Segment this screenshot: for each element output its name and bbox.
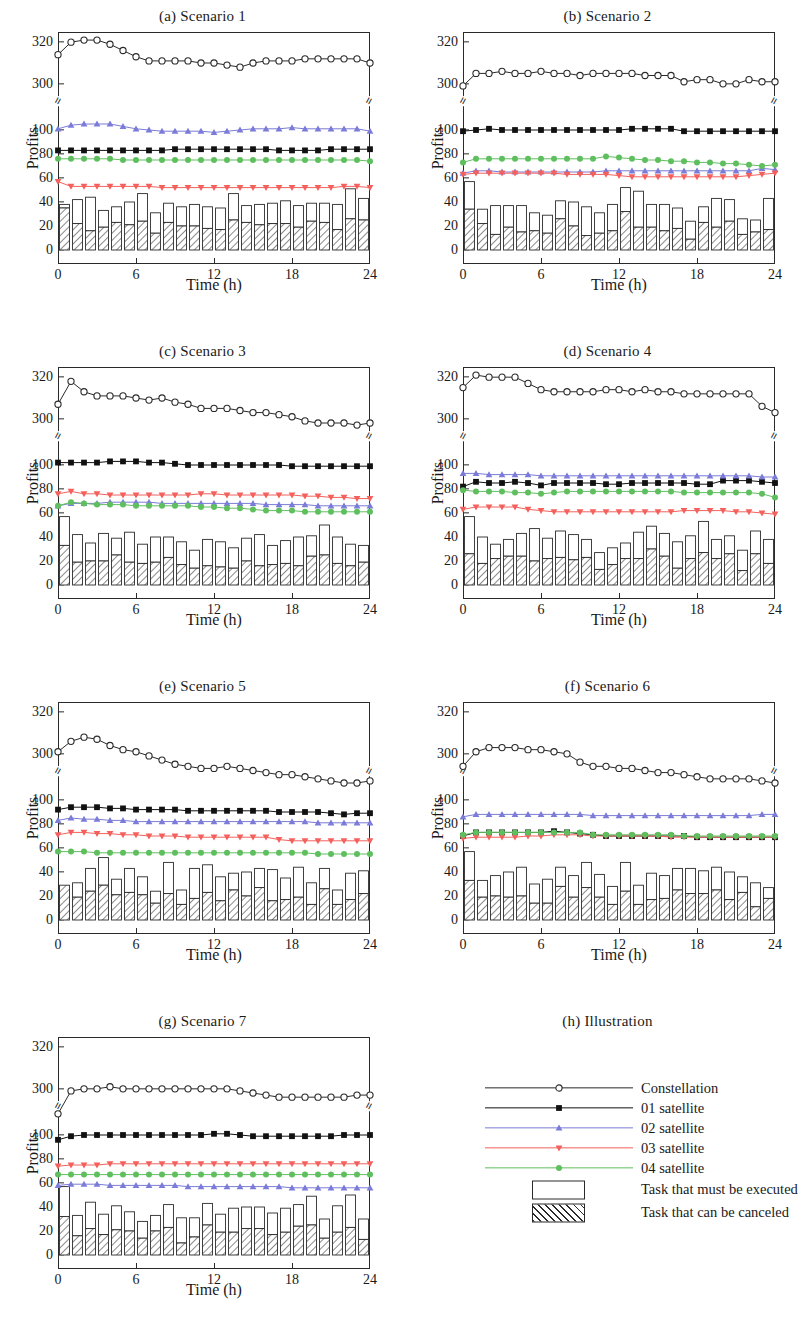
bar-can-cancel	[660, 898, 670, 920]
y-tick-label: 20	[39, 554, 53, 568]
bar-can-cancel	[634, 904, 644, 920]
legend: Constellation01 satellite02 satellite03 …	[485, 1078, 805, 1224]
bar-must-execute	[346, 873, 356, 899]
legend-item: 02 satellite	[485, 1118, 805, 1138]
bar-must-execute	[125, 868, 135, 892]
bar-can-cancel	[203, 566, 213, 585]
panel-c-plot: ProfitsTime (h)3203001008060402000612182…	[58, 367, 370, 599]
bar-can-cancel	[86, 891, 96, 920]
bar-must-execute	[621, 188, 631, 212]
x-tick-label: 0	[55, 1273, 62, 1287]
y-tick-label: 60	[39, 1176, 53, 1190]
bar-can-cancel	[764, 563, 774, 585]
bar-must-execute	[294, 1205, 304, 1227]
bar-must-execute	[333, 204, 343, 229]
bar-can-cancel	[190, 568, 200, 585]
bar-must-execute	[333, 1206, 343, 1232]
bar-can-cancel	[177, 1243, 187, 1255]
y-tick-label: 0	[46, 913, 53, 927]
bar-can-cancel	[164, 894, 174, 920]
x-tick-label: 18	[285, 603, 299, 617]
legend-item: 01 satellite	[485, 1098, 805, 1118]
panel-d-title: (d) Scenario 4	[405, 343, 810, 360]
bar-must-execute	[229, 194, 239, 220]
bar-can-cancel	[190, 226, 200, 250]
legend-item: Task that can be canceled	[485, 1201, 805, 1224]
bar-group	[60, 858, 369, 920]
bar-can-cancel	[504, 897, 514, 920]
bar-must-execute	[634, 191, 644, 227]
bar-can-cancel	[99, 561, 109, 585]
bar-must-execute	[203, 1203, 213, 1225]
y-tick-label: 60	[444, 506, 458, 520]
bar-must-execute	[764, 539, 774, 563]
bar-can-cancel	[125, 225, 135, 250]
bar-must-execute	[621, 543, 631, 559]
legend-swatch-white	[532, 1180, 585, 1199]
y-tick-label: 100	[437, 793, 458, 807]
bar-can-cancel	[229, 890, 239, 920]
y-tick-label: 80	[444, 147, 458, 161]
series-markers	[55, 1131, 373, 1143]
bar-can-cancel	[699, 894, 709, 920]
bar-can-cancel	[294, 1226, 304, 1255]
bar-must-execute	[112, 879, 122, 895]
y-tick-label: 40	[444, 865, 458, 879]
bar-must-execute	[216, 208, 226, 230]
bar-can-cancel	[73, 224, 83, 250]
bar-must-execute	[99, 858, 109, 886]
bar-can-cancel	[99, 885, 109, 920]
series-markers	[55, 1161, 374, 1169]
bar-must-execute	[307, 883, 317, 905]
bar-can-cancel	[359, 562, 369, 585]
x-tick-label: 0	[55, 268, 62, 282]
bar-must-execute	[647, 204, 657, 227]
bar-must-execute	[216, 877, 226, 901]
bar-must-execute	[543, 879, 553, 903]
bar-must-execute	[346, 544, 356, 566]
bar-can-cancel	[673, 890, 683, 920]
series-line	[58, 381, 370, 425]
bar-group	[465, 517, 774, 585]
bar-must-execute	[634, 532, 644, 558]
bar-must-execute	[751, 220, 761, 232]
bar-must-execute	[73, 1215, 83, 1235]
bar-must-execute	[242, 206, 252, 223]
bar-must-execute	[242, 1207, 252, 1229]
bar-can-cancel	[582, 888, 592, 920]
legend-marker-filled-square-icon	[551, 1100, 567, 1116]
bar-must-execute	[608, 886, 618, 904]
bar-must-execute	[255, 1207, 265, 1229]
bar-can-cancel	[478, 897, 488, 920]
bar-must-execute	[320, 1219, 330, 1238]
bar-must-execute	[203, 207, 213, 229]
bar-must-execute	[112, 207, 122, 223]
bar-can-cancel	[478, 563, 488, 585]
panel-a-plot: ProfitsTime (h)3203001008060402000612182…	[58, 32, 370, 264]
y-tick-label: 0	[451, 578, 458, 592]
plot-canvas	[58, 1037, 370, 1269]
bar-can-cancel	[255, 1229, 265, 1255]
bar-can-cancel	[556, 219, 566, 250]
bar-must-execute	[478, 880, 488, 897]
y-tick-label: 300	[32, 412, 53, 426]
series-markers	[460, 478, 778, 490]
bar-must-execute	[764, 198, 774, 229]
bar-can-cancel	[242, 1229, 252, 1255]
bar-must-execute	[99, 210, 109, 227]
legend-label: 04 satellite	[641, 1160, 704, 1177]
bar-must-execute	[569, 535, 579, 560]
bar-must-execute	[359, 1219, 369, 1239]
x-tick-label: 6	[538, 603, 545, 617]
bar-must-execute	[242, 872, 252, 896]
y-tick-label: 20	[39, 889, 53, 903]
bar-can-cancel	[294, 566, 304, 585]
bar-must-execute	[359, 198, 369, 220]
bar-can-cancel	[359, 894, 369, 920]
bar-can-cancel	[216, 1232, 226, 1255]
bar-can-cancel	[738, 234, 748, 250]
bar-must-execute	[530, 213, 540, 231]
plot-canvas	[463, 702, 775, 934]
legend-key	[485, 1078, 633, 1098]
bar-must-execute	[504, 872, 514, 897]
